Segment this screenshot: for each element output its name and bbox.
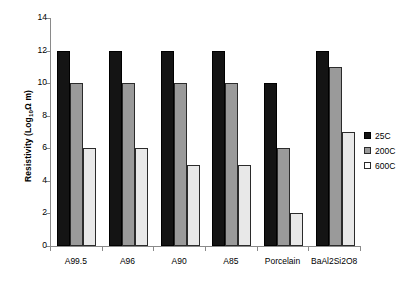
x-axis-category-label: Porcelain: [265, 256, 300, 266]
x-axis-tick: [153, 246, 154, 251]
bar: [225, 83, 238, 246]
bar: [277, 148, 290, 246]
x-axis-tick: [308, 246, 309, 251]
bar: [290, 213, 303, 246]
x-axis-tick: [102, 246, 103, 251]
bar: [109, 51, 122, 246]
y-axis-tick-label: 8: [42, 110, 47, 120]
bar: [316, 51, 329, 246]
legend-label: 25C: [375, 131, 391, 141]
bar: [57, 51, 70, 246]
x-axis-category-label: BaAl2Si2O8: [311, 256, 357, 266]
bar: [70, 83, 83, 246]
bars-layer: [51, 18, 360, 246]
bar-chart: Resistivity (Log10Ω m) 02468101214 A99.5…: [0, 0, 420, 290]
y-axis-title-post: Ω m): [23, 90, 33, 110]
bar: [187, 165, 200, 246]
legend-swatch-icon: [364, 132, 371, 139]
bar: [329, 67, 342, 246]
legend-swatch-icon: [364, 147, 371, 154]
bar: [174, 83, 187, 246]
x-axis-category-label: A99.5: [65, 256, 87, 266]
legend: 25C200C600C: [364, 128, 418, 173]
x-axis-tick: [205, 246, 206, 251]
legend-label: 200C: [375, 146, 395, 156]
y-axis-tick-label: 4: [42, 175, 47, 185]
bar: [161, 51, 174, 246]
bar: [342, 132, 355, 246]
bar: [212, 51, 225, 246]
y-axis-tick-label: 10: [38, 77, 47, 87]
bar: [122, 83, 135, 246]
x-axis-tick: [257, 246, 258, 251]
y-axis-tick-label: 14: [38, 12, 47, 22]
x-axis-tick: [360, 246, 361, 251]
legend-item: 600C: [364, 158, 418, 173]
y-axis-tick-label: 2: [42, 207, 47, 217]
y-axis-title-pre: Resistivity (Log: [23, 117, 33, 182]
x-axis-category-label: A85: [223, 256, 238, 266]
y-axis-title: Resistivity (Log10Ω m): [23, 41, 33, 231]
legend-item: 200C: [364, 143, 418, 158]
y-axis-tick-label: 12: [38, 45, 47, 55]
x-axis-category-label: A96: [120, 256, 135, 266]
x-axis-category-label: A90: [172, 256, 187, 266]
legend-swatch-icon: [364, 162, 371, 169]
x-axis-tick: [50, 246, 51, 251]
bar: [238, 165, 251, 246]
y-axis-tick-label: 0: [42, 240, 47, 250]
legend-item: 25C: [364, 128, 418, 143]
y-axis-title-subscript: 10: [27, 110, 34, 117]
legend-label: 600C: [375, 161, 395, 171]
plot-area: 02468101214: [50, 18, 360, 246]
bar: [83, 148, 96, 246]
bar: [264, 83, 277, 246]
y-axis-tick-label: 6: [42, 142, 47, 152]
bar: [135, 148, 148, 246]
